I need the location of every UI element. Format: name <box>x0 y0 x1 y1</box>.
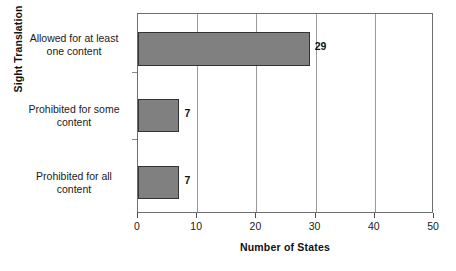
x-axis-tick <box>196 213 197 218</box>
x-axis-tick-label: 30 <box>295 220 335 232</box>
x-axis-tick-label: 20 <box>235 220 275 232</box>
bar <box>138 166 179 199</box>
y-category-label-line: content <box>18 116 130 129</box>
x-axis-tick <box>137 213 138 218</box>
x-axis-tick <box>315 213 316 218</box>
bar <box>138 99 179 132</box>
y-category-label: Allowed for at least one content <box>18 32 130 57</box>
plot-area <box>137 13 433 213</box>
y-category-label-line: Prohibited for all <box>18 170 130 183</box>
gridline-x <box>375 14 376 212</box>
x-axis-tick <box>433 213 434 218</box>
y-category-label-line: one content <box>18 45 130 58</box>
x-axis-tick-label: 40 <box>354 220 394 232</box>
bar-value-label: 7 <box>184 174 190 186</box>
x-axis-tick-label: 0 <box>117 220 157 232</box>
bar-value-label: 29 <box>315 40 327 52</box>
y-category-label: Prohibited for all content <box>18 170 130 195</box>
y-category-label-line: content <box>18 183 130 196</box>
bar-value-label: 7 <box>184 107 190 119</box>
y-category-label-line: Allowed for at least <box>18 32 130 45</box>
bar <box>138 32 310 66</box>
bar-chart: Sight Translation Allowed for at least o… <box>0 0 456 271</box>
y-category-label-line: Prohibited for some <box>18 103 130 116</box>
x-axis-tick-label: 10 <box>176 220 216 232</box>
x-axis-tick-label: 50 <box>413 220 453 232</box>
x-axis-title: Number of States <box>137 241 433 253</box>
x-axis-tick <box>255 213 256 218</box>
y-category-label: Prohibited for some content <box>18 103 130 128</box>
x-axis-tick <box>374 213 375 218</box>
